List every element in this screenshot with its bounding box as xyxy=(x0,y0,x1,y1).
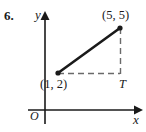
y-axis-label: y xyxy=(35,8,41,21)
point-label-lower-vertex: (1, 2) xyxy=(40,78,67,91)
point-marker-upper-vertex xyxy=(117,25,122,30)
y-axis xyxy=(41,11,50,124)
point-label-right-angle-vertex: T xyxy=(119,78,126,91)
origin-label: O xyxy=(30,110,39,122)
y-axis-arrowhead-icon xyxy=(41,11,50,20)
hypotenuse-segment xyxy=(58,28,120,73)
coordinate-figure: 6. y x O (5, 5) (1, 2) T xyxy=(0,0,146,132)
point-label-upper-vertex: (5, 5) xyxy=(102,9,129,22)
problem-number: 6. xyxy=(4,9,14,22)
point-marker-lower-vertex xyxy=(55,70,60,75)
x-axis-label: x xyxy=(133,113,139,126)
